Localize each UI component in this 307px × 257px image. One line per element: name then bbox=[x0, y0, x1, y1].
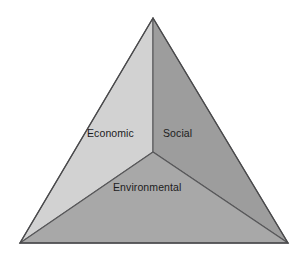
segment-label-social: Social bbox=[163, 127, 192, 139]
segment-label-economic: Economic bbox=[87, 127, 134, 139]
segment-label-environmental: Environmental bbox=[113, 181, 181, 193]
triangle-graphic bbox=[0, 0, 307, 257]
sustainability-triangle-diagram: Economic Social Environmental bbox=[0, 0, 307, 257]
